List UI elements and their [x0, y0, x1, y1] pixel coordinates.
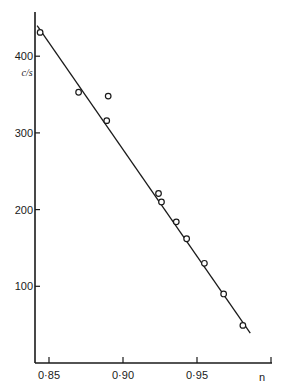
data-point-circle [184, 236, 190, 242]
x-tick-label: 0·95 [186, 369, 208, 381]
y-tick-label: 400 [15, 50, 33, 62]
regression-line [37, 26, 250, 334]
x-axis-label: n [259, 371, 265, 383]
y-tick-label: 100 [15, 280, 33, 292]
data-point-circle [104, 118, 110, 124]
y-tick-label: 300 [15, 127, 33, 139]
data-point-circle [105, 93, 111, 99]
fitted-line [37, 26, 250, 334]
y-tick-label: 200 [15, 204, 33, 216]
data-point-circle [156, 191, 162, 197]
data-point-circle [202, 260, 208, 266]
x-tick-label: 0·90 [112, 369, 134, 381]
chart-canvas: 0·850·900·95 100200300400 c/s n [0, 0, 284, 390]
y-axis-label: c/s [21, 67, 32, 78]
data-point-circle [159, 199, 165, 205]
data-point-circle [173, 219, 179, 225]
data-points [37, 30, 245, 329]
data-point-circle [240, 323, 246, 329]
data-point-circle [76, 89, 82, 95]
x-tick-label: 0·85 [38, 369, 60, 381]
data-point-circle [221, 291, 227, 297]
y-ticks: 100200300400 [15, 50, 40, 292]
x-ticks: 0·850·900·95 [38, 357, 271, 381]
data-point-circle [37, 30, 43, 36]
